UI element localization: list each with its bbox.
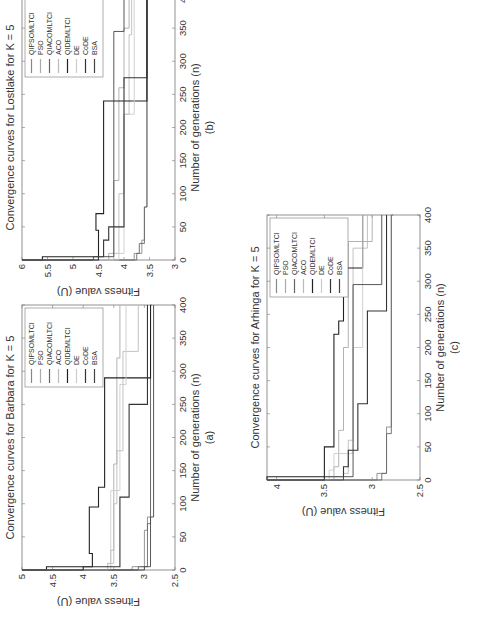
- y-axis-label: Fitness value (U): [302, 506, 385, 518]
- legend-entry: DE: [318, 265, 325, 275]
- x-axis-label: Number of generations (n): [434, 283, 446, 411]
- legend-entry: DE: [73, 355, 80, 365]
- y-tick-label: 6: [16, 264, 27, 269]
- x-tick-label: 400: [177, 0, 188, 3]
- x-tick-label: 100: [177, 496, 188, 512]
- y-tick-label: 4: [118, 264, 129, 269]
- x-tick-label: 250: [422, 306, 433, 322]
- legend-entry: QIPSOMLTCI: [28, 12, 36, 55]
- legend-entry: BSA: [91, 41, 98, 55]
- x-tick-label: 350: [422, 240, 433, 256]
- y-tick-label: 5: [16, 574, 27, 579]
- panel-label: (a): [203, 431, 215, 444]
- x-tick-label: 0: [177, 567, 188, 572]
- legend-entry: CoDE: [327, 256, 334, 275]
- x-tick-label: 400: [422, 207, 433, 223]
- x-tick-label: 400: [177, 297, 188, 313]
- y-tick-label: 3: [169, 264, 180, 269]
- chart-panel-barbara: Convergence curves for Barbara for K = 5…: [0, 290, 215, 610]
- x-axis-label: Number of generations (n): [189, 63, 201, 191]
- legend-entry: PSO: [282, 260, 289, 275]
- legend-entry: QIDEMLTCI: [64, 17, 72, 55]
- y-tick-label: 3: [138, 574, 149, 579]
- chart-panel-lostlake: Convergence curves for Lostlake for K = …: [0, 0, 215, 300]
- legend-entry: ACO: [55, 349, 62, 365]
- y-tick-label: 3.5: [318, 484, 329, 497]
- x-tick-label: 150: [177, 463, 188, 479]
- y-tick-label: 4.5: [93, 264, 104, 277]
- y-tick-label: 2.5: [414, 484, 425, 497]
- y-tick-label: 4: [271, 484, 282, 489]
- legend-entry: QIACOMLTCI: [291, 232, 299, 275]
- chart-title: Convergence curves for Arhinga for K = 5: [249, 246, 261, 448]
- chart-title: Convergence curves for Lostlake for K = …: [4, 25, 16, 231]
- x-tick-label: 50: [177, 532, 188, 543]
- x-tick-label: 350: [177, 330, 188, 346]
- chart-panel-arhinga: Convergence curves for Arhinga for K = 5…: [245, 200, 460, 520]
- y-tick-label: 5: [67, 264, 78, 269]
- legend-entry: BSA: [336, 261, 343, 275]
- legend-entry: DE: [73, 45, 80, 55]
- legend-entry: QIPSOMLTCI: [28, 322, 36, 365]
- legend-entry: PSO: [37, 40, 44, 55]
- x-tick-label: 300: [177, 363, 188, 379]
- legend-entry: QIDEMLTCI: [309, 237, 317, 275]
- x-tick-label: 150: [177, 153, 188, 169]
- chart-title: Convergence curves for Barbara for K = 5: [4, 336, 16, 540]
- x-tick-label: 0: [422, 477, 433, 482]
- x-tick-label: 50: [422, 442, 433, 453]
- y-tick-label: 4.5: [47, 574, 58, 587]
- x-tick-label: 0: [177, 257, 188, 262]
- x-tick-label: 200: [177, 120, 188, 136]
- x-tick-label: 100: [177, 186, 188, 202]
- legend-entry: CoDE: [82, 36, 89, 55]
- x-tick-label: 350: [177, 20, 188, 36]
- x-tick-label: 100: [422, 406, 433, 422]
- legend-entry: QIPSOMLTCI: [273, 232, 281, 275]
- x-tick-label: 250: [177, 396, 188, 412]
- legend-entry: ACO: [300, 259, 307, 275]
- y-tick-label: 3: [366, 484, 377, 489]
- y-tick-label: 4: [77, 574, 88, 579]
- legend-entry: PSO: [37, 350, 44, 365]
- y-tick-label: 3.5: [144, 264, 155, 277]
- y-axis-label: Fitness value (U): [57, 596, 140, 608]
- x-tick-label: 200: [422, 340, 433, 356]
- y-tick-label: 2.5: [169, 574, 180, 587]
- x-tick-label: 50: [177, 222, 188, 233]
- x-tick-label: 300: [177, 53, 188, 69]
- legend-entry: CoDE: [82, 346, 89, 365]
- legend-entry: ACO: [55, 39, 62, 55]
- legend-entry: QIACOMLTCI: [46, 322, 54, 365]
- x-axis-label: Number of generations (n): [189, 373, 201, 501]
- legend-entry: BSA: [91, 351, 98, 365]
- x-tick-label: 250: [177, 86, 188, 102]
- panel-label: (c): [448, 341, 460, 354]
- y-tick-label: 3.5: [108, 574, 119, 587]
- panel-label: (b): [203, 121, 215, 134]
- y-tick-label: 5.5: [42, 264, 53, 277]
- legend-entry: QIDEMLTCI: [64, 327, 72, 365]
- x-tick-label: 150: [422, 373, 433, 389]
- legend-entry: QIACOMLTCI: [46, 12, 54, 55]
- x-tick-label: 300: [422, 273, 433, 289]
- x-tick-label: 200: [177, 430, 188, 446]
